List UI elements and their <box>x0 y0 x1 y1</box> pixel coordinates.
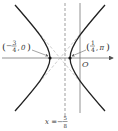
right-vertex-pointer <box>72 50 86 56</box>
dashed-line-label: x = − 5 8 <box>45 115 68 129</box>
svg-text:0: 0 <box>21 44 26 52</box>
svg-text:5: 5 <box>64 115 68 121</box>
svg-text:4: 4 <box>91 46 95 53</box>
svg-text:3: 3 <box>13 39 17 46</box>
svg-text:x =: x = <box>45 118 57 126</box>
svg-text:,: , <box>18 44 20 52</box>
origin-label: O <box>82 60 89 69</box>
svg-text:π: π <box>99 44 105 52</box>
svg-text:−: − <box>57 118 63 126</box>
svg-text:): ) <box>106 41 110 52</box>
svg-text:(: ( <box>86 41 90 52</box>
right-vertex-label: ( 1 4 , π ) <box>86 39 110 54</box>
svg-text:8: 8 <box>64 123 68 129</box>
svg-text:,: , <box>96 44 98 52</box>
svg-text:−: − <box>6 42 12 50</box>
svg-text:4: 4 <box>13 46 17 53</box>
left-vertex-label: ( − 3 4 , 0 ) <box>2 39 31 54</box>
svg-text:): ) <box>27 41 31 52</box>
hyperbola-diagram: ( − 3 4 , 0 ) ( 1 4 , π ) O x = − 5 8 <box>0 0 118 131</box>
left-vertex-pointer <box>32 50 48 56</box>
left-vertex-point <box>48 56 51 59</box>
right-vertex-point <box>68 56 71 59</box>
svg-text:1: 1 <box>91 39 95 46</box>
